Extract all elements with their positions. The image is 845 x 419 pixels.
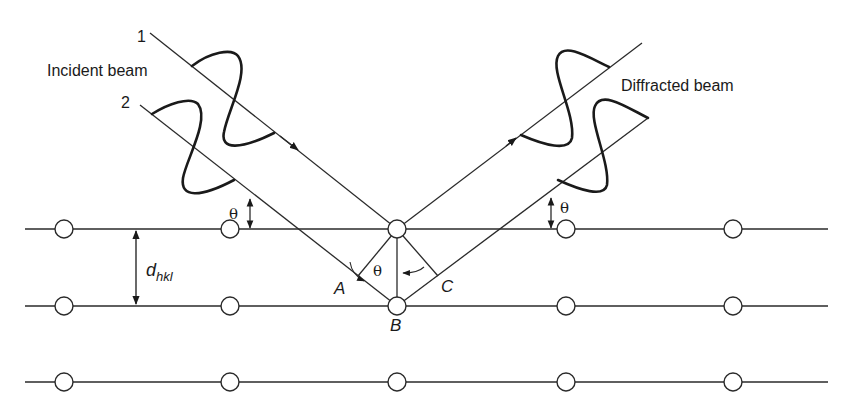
theta-label-left: θ bbox=[229, 205, 238, 223]
path-construction bbox=[350, 229, 438, 306]
point-c-label: C bbox=[441, 277, 454, 296]
incident-beam-label: Incident beam bbox=[47, 62, 148, 79]
diffracted-ray-2 bbox=[397, 118, 648, 306]
theta-label-center: θ bbox=[373, 262, 382, 280]
atom bbox=[55, 297, 73, 315]
d-hkl-label: dhkl bbox=[146, 260, 174, 284]
incident-waves bbox=[152, 52, 274, 193]
incident-arrow bbox=[280, 136, 298, 150]
lattice-planes bbox=[25, 229, 828, 382]
atom bbox=[221, 373, 239, 391]
d-subscript: hkl bbox=[156, 269, 174, 284]
incident-ray-1 bbox=[150, 33, 397, 229]
atom bbox=[557, 220, 575, 238]
incident-wave-2 bbox=[152, 101, 234, 194]
incident-rays bbox=[140, 33, 397, 306]
atom bbox=[724, 373, 742, 391]
point-b-label: B bbox=[390, 316, 401, 335]
atom bbox=[724, 297, 742, 315]
atom bbox=[557, 373, 575, 391]
atom bbox=[388, 373, 406, 391]
atom bbox=[388, 220, 406, 238]
point-a-label: A bbox=[333, 279, 345, 298]
atom bbox=[55, 220, 73, 238]
diffracted-arrow bbox=[506, 138, 516, 146]
angle-arrow-right bbox=[403, 267, 424, 273]
atom bbox=[724, 220, 742, 238]
ray-1-label: 1 bbox=[137, 28, 146, 45]
ray-2-label: 2 bbox=[121, 94, 130, 111]
atom bbox=[221, 297, 239, 315]
diffracted-rays bbox=[397, 43, 648, 306]
diffracted-ray-1 bbox=[397, 43, 642, 229]
theta-label-right: θ bbox=[560, 199, 569, 217]
diffracted-wave-2 bbox=[558, 100, 648, 192]
diffracted-beam-label: Diffracted beam bbox=[621, 77, 734, 94]
atom bbox=[388, 297, 406, 315]
atom bbox=[55, 373, 73, 391]
atom bbox=[557, 297, 575, 315]
bragg-diagram: 1 2 Incident beam Diffracted beam θ θ θ … bbox=[0, 0, 845, 419]
